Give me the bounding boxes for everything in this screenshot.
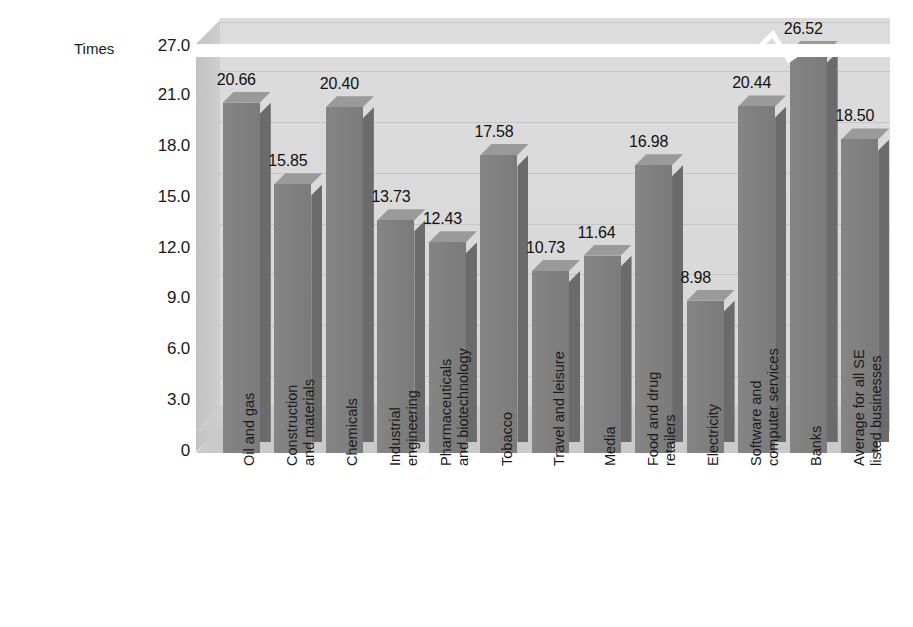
category-label-8: Food and drugretailers [645, 372, 679, 466]
bar-front-face [584, 256, 621, 453]
category-label-5: Tobacco [499, 412, 516, 466]
category-label-line: Electricity [705, 404, 722, 466]
category-label-6: Travel and leisure [551, 351, 568, 466]
category-label-line: Food and drug [645, 372, 662, 466]
category-label-line: retailers [662, 372, 679, 466]
y-tick-12-0: 12.0 [120, 238, 190, 258]
category-label-line: Travel and leisure [551, 351, 568, 466]
category-label-12: Average for all SElisted businesses [851, 349, 885, 466]
value-label-6: 10.73 [526, 239, 565, 257]
value-label-10: 20.44 [732, 74, 771, 92]
y-tick-6-0: 6.0 [120, 339, 190, 359]
bar-side-face [621, 256, 632, 442]
category-label-3: Industrialengineering [387, 390, 421, 466]
value-label-7: 11.64 [578, 224, 616, 242]
bar-side-face [363, 107, 374, 442]
bar-media [584, 256, 621, 453]
bar-chart: Times 27.021.018.015.012.09.06.03.00 20.… [0, 0, 913, 627]
y-tick-0: 0 [120, 441, 190, 461]
category-label-line: Construction [284, 379, 301, 466]
category-label-line: Software and [748, 348, 765, 466]
value-label-1: 15.85 [268, 152, 307, 170]
value-label-11: 26.52 [784, 20, 823, 38]
category-label-line: engineering [404, 390, 421, 466]
y-tick-3-0: 3.0 [120, 390, 190, 410]
category-label-4: Pharmaceuticalsand biotechnology [438, 348, 472, 466]
category-label-line: and biotechnology [455, 348, 472, 466]
category-label-line: Oil and gas [241, 393, 258, 466]
category-label-line: Chemicals [344, 398, 361, 466]
bar-side-face [724, 301, 735, 442]
value-label-0: 20.66 [217, 71, 256, 89]
category-label-9: Electricity [705, 404, 722, 466]
value-label-3: 13.73 [371, 188, 410, 206]
value-label-2: 20.40 [320, 75, 359, 93]
bar-tobacco [480, 155, 517, 453]
category-label-2: Chemicals [344, 398, 361, 466]
category-label-line: listed businesses [868, 349, 885, 466]
category-label-line: Average for all SE [851, 349, 868, 466]
y-tick-21-0: 21.0 [120, 85, 190, 105]
value-label-9: 8.98 [681, 269, 711, 287]
category-label-1: Constructionand materials [284, 379, 318, 466]
category-label-0: Oil and gas [241, 393, 258, 466]
bar-side-face [517, 155, 528, 442]
y-axis-title: Times [74, 40, 114, 57]
y-tick-9-0: 9.0 [120, 288, 190, 308]
y-tick-27-0: 27.0 [120, 36, 190, 56]
category-label-line: Banks [808, 426, 825, 466]
bar-front-face [790, 52, 827, 453]
category-label-line: Pharmaceuticals [438, 348, 455, 466]
category-label-line: Industrial [387, 390, 404, 466]
bar-front-face [480, 155, 517, 453]
bar-side-face [569, 271, 580, 442]
y-tick-18-0: 18.0 [120, 136, 190, 156]
category-label-line: Tobacco [499, 412, 516, 466]
value-label-5: 17.58 [474, 123, 513, 141]
bar-banks [790, 52, 827, 453]
value-label-12: 18.50 [835, 107, 874, 125]
category-label-line: computer services [765, 348, 782, 466]
category-label-line: and materials [301, 379, 318, 466]
category-label-10: Software andcomputer services [748, 348, 782, 466]
category-label-11: Banks [808, 426, 825, 466]
value-label-8: 16.98 [629, 133, 668, 151]
y-tick-15-0: 15.0 [120, 187, 190, 207]
category-label-line: Media [602, 427, 619, 467]
category-label-7: Media [602, 427, 619, 467]
axis-break-white-band [196, 44, 890, 57]
value-label-4: 12.43 [423, 210, 462, 228]
